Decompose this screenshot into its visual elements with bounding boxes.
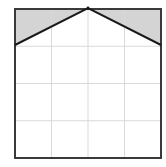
- peak-point: [87, 7, 90, 10]
- grid-diagram: [0, 0, 166, 167]
